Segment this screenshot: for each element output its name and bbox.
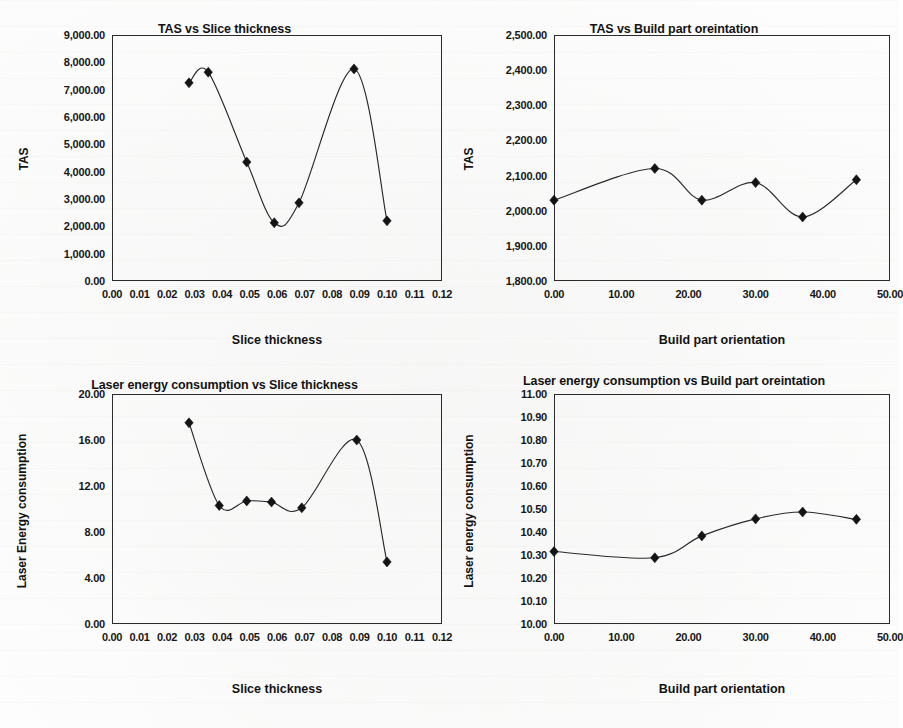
y-axis-tick-label: 10.60 bbox=[520, 480, 547, 492]
y-axis-tick-label: 2,500.00 bbox=[506, 29, 547, 41]
y-axis-tick-label: 3,000.00 bbox=[64, 193, 105, 205]
x-axis-tick-label: 10.00 bbox=[608, 288, 634, 300]
x-axis-tick-label: 0.01 bbox=[129, 631, 149, 643]
x-axis-tick-label: 0.03 bbox=[184, 288, 204, 300]
y-axis-tick-label: 10.80 bbox=[520, 434, 547, 446]
x-axis-tick-label: 0.09 bbox=[349, 631, 369, 643]
y-axis-label: TAS bbox=[17, 99, 31, 219]
x-axis-tick-label: 40.00 bbox=[810, 631, 836, 643]
y-axis-tick-label: 0.00 bbox=[84, 275, 105, 287]
y-axis-tick-label: 20.00 bbox=[78, 388, 105, 400]
x-axis-tick-label: 0.10 bbox=[377, 631, 397, 643]
y-axis-tick-label: 2,100.00 bbox=[506, 170, 547, 182]
x-axis-tick-label: 0.02 bbox=[157, 288, 177, 300]
x-axis-label: Build part orientation bbox=[554, 333, 890, 347]
y-axis-tick-label: 12.00 bbox=[78, 480, 105, 492]
y-axis-label: TAS bbox=[462, 99, 476, 219]
y-axis-tick-label: 1,000.00 bbox=[64, 248, 105, 260]
y-axis-tick-label: 1,800.00 bbox=[506, 275, 547, 287]
chart-laser-energy-vs-build-part-orientation: Laser energy consumption vs Build part o… bbox=[449, 372, 899, 728]
x-axis-tick-label: 0.05 bbox=[239, 631, 259, 643]
x-axis-tick-label: 0.11 bbox=[405, 631, 425, 643]
y-axis-tick-label: 10.90 bbox=[520, 411, 547, 423]
x-axis-tick-label: 0.04 bbox=[212, 631, 232, 643]
y-axis-tick-label: 0.00 bbox=[84, 618, 105, 630]
y-axis-tick-label: 10.30 bbox=[520, 549, 547, 561]
x-axis-tick-label: 0.06 bbox=[267, 631, 287, 643]
plot-area bbox=[112, 35, 442, 281]
x-axis-tick-label: 0.07 bbox=[294, 288, 314, 300]
y-axis-tick-label: 10.20 bbox=[520, 572, 547, 584]
y-axis-tick-label: 1,900.00 bbox=[506, 240, 547, 252]
x-axis-tick-label: 0.00 bbox=[102, 631, 122, 643]
y-axis-tick-label: 8,000.00 bbox=[64, 56, 105, 68]
y-axis-tick-label: 2,000.00 bbox=[506, 205, 547, 217]
x-axis-tick-label: 0.08 bbox=[322, 288, 342, 300]
x-axis-tick-label: 30.00 bbox=[743, 631, 769, 643]
y-axis-label: Laser energy consumption bbox=[462, 406, 476, 616]
y-axis-tick-label: 2,400.00 bbox=[506, 64, 547, 76]
x-axis-tick-label: 0.00 bbox=[544, 631, 564, 643]
y-axis-tick-label: 2,300.00 bbox=[506, 99, 547, 111]
chart-title: Laser energy consumption vs Build part o… bbox=[449, 374, 899, 388]
y-axis-tick-label: 10.40 bbox=[520, 526, 547, 538]
chart-tas-vs-build-part-orientation: TAS vs Build part oreintation TAS Build … bbox=[449, 0, 899, 372]
x-axis-tick-label: 0.04 bbox=[212, 288, 232, 300]
x-axis-label: Build part orientation bbox=[554, 682, 890, 696]
y-axis-tick-label: 8.00 bbox=[84, 526, 105, 538]
x-axis-tick-label: 0.06 bbox=[267, 288, 287, 300]
y-axis-tick-label: 10.10 bbox=[520, 595, 547, 607]
x-axis-tick-label: 0.08 bbox=[322, 631, 342, 643]
chart-tas-vs-slice-thickness: TAS vs Slice thickness TAS Slice thickne… bbox=[0, 0, 449, 372]
y-axis-tick-label: 4.00 bbox=[84, 572, 105, 584]
x-axis-tick-label: 50.00 bbox=[877, 631, 903, 643]
x-axis-tick-label: 40.00 bbox=[810, 288, 836, 300]
x-axis-tick-label: 50.00 bbox=[877, 288, 903, 300]
x-axis-label: Slice thickness bbox=[112, 333, 442, 347]
y-axis-tick-label: 10.70 bbox=[520, 457, 547, 469]
x-axis-tick-label: 0.05 bbox=[239, 288, 259, 300]
x-axis-tick-label: 30.00 bbox=[743, 288, 769, 300]
x-axis-tick-label: 20.00 bbox=[675, 631, 701, 643]
y-axis-tick-label: 7,000.00 bbox=[64, 84, 105, 96]
x-axis-tick-label: 0.11 bbox=[405, 288, 425, 300]
y-axis-tick-label: 10.00 bbox=[520, 618, 547, 630]
x-axis-tick-label: 0.10 bbox=[377, 288, 397, 300]
y-axis-tick-label: 2,200.00 bbox=[506, 134, 547, 146]
x-axis-tick-label: 10.00 bbox=[608, 631, 634, 643]
x-axis-tick-label: 0.03 bbox=[184, 631, 204, 643]
y-axis-tick-label: 10.50 bbox=[520, 503, 547, 515]
y-axis-tick-label: 2,000.00 bbox=[64, 220, 105, 232]
plot-area bbox=[554, 35, 890, 281]
x-axis-tick-label: 20.00 bbox=[675, 288, 701, 300]
chart-laser-energy-vs-slice-thickness: Laser energy consumption vs Slice thickn… bbox=[0, 372, 449, 728]
x-axis-tick-label: 0.02 bbox=[157, 631, 177, 643]
chart-title: Laser energy consumption vs Slice thickn… bbox=[0, 378, 449, 392]
x-axis-tick-label: 0.01 bbox=[129, 288, 149, 300]
y-axis-tick-label: 4,000.00 bbox=[64, 166, 105, 178]
x-axis-tick-label: 0.00 bbox=[102, 288, 122, 300]
plot-area bbox=[554, 394, 890, 624]
x-axis-label: Slice thickness bbox=[112, 682, 442, 696]
plot-area bbox=[112, 394, 442, 624]
y-axis-tick-label: 16.00 bbox=[78, 434, 105, 446]
x-axis-tick-label: 0.09 bbox=[349, 288, 369, 300]
x-axis-tick-label: 0.00 bbox=[544, 288, 564, 300]
y-axis-label: Laser Energy consumption bbox=[15, 406, 29, 616]
y-axis-tick-label: 9,000.00 bbox=[64, 29, 105, 41]
y-axis-tick-label: 5,000.00 bbox=[64, 138, 105, 150]
y-axis-tick-label: 6,000.00 bbox=[64, 111, 105, 123]
y-axis-tick-label: 11.00 bbox=[521, 388, 547, 400]
x-axis-tick-label: 0.07 bbox=[294, 631, 314, 643]
